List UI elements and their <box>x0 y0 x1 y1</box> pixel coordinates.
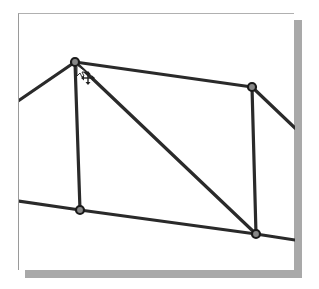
truss-member-m8[interactable] <box>80 210 256 234</box>
truss-member-m2[interactable] <box>75 62 252 87</box>
truss-member-m7[interactable] <box>18 201 80 210</box>
truss-member-m4[interactable] <box>75 62 80 210</box>
move-cursor-icon <box>77 65 95 85</box>
truss-node-n1[interactable] <box>71 58 79 66</box>
truss-member-m3[interactable] <box>252 87 295 128</box>
truss-structure[interactable] <box>0 0 319 289</box>
truss-member-m9[interactable] <box>256 234 295 240</box>
truss-node-n3[interactable] <box>76 206 84 214</box>
truss-member-m1[interactable] <box>18 62 75 101</box>
truss-member-m5[interactable] <box>75 62 256 234</box>
truss-node-n2[interactable] <box>248 83 256 91</box>
truss-member-m6[interactable] <box>252 87 256 234</box>
truss-node-n4[interactable] <box>252 230 260 238</box>
